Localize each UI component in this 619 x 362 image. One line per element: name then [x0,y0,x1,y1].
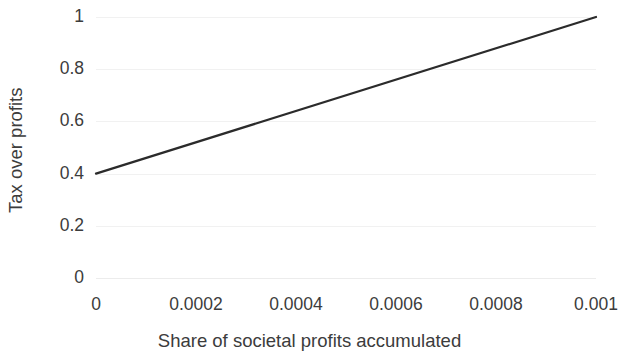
gridline [96,278,596,279]
chart-figure: 00.20.40.60.81 00.00020.00040.00060.0008… [0,0,619,362]
y-tick-label: 0.6 [60,113,84,131]
y-tick-label: 0.8 [60,60,84,78]
series-line-chart [96,17,596,278]
y-axis-title: Tax over profits [0,0,34,300]
x-tick-label: 0 [91,296,101,314]
x-tick-label: 0.0004 [269,296,323,314]
x-tick-label: 0.0002 [169,296,223,314]
x-tick-label: 0.0006 [369,296,423,314]
x-tick-label: 0.0008 [469,296,523,314]
y-tick-label: 0 [74,269,84,287]
y-tick-label: 1 [74,8,84,26]
series-line-tax-over-profits [96,17,596,174]
y-tick-label: 0.2 [60,217,84,235]
y-tick-label: 0.4 [60,165,84,183]
plot-area [96,17,596,278]
y-axis-title-text: Tax over profits [8,87,27,212]
x-axis-title: Share of societal profits accumulated [0,332,619,351]
x-tick-label: 0.001 [574,296,618,314]
